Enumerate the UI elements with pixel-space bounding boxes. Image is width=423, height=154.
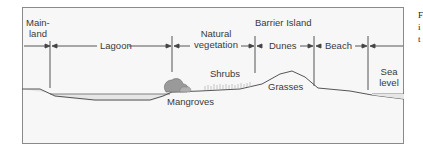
side-text-1: F (418, 10, 423, 20)
shrubs-label: Shrubs (210, 68, 240, 79)
natural-vegetation-label: Natural vegetation (190, 28, 242, 50)
sea-label-line1: Sea (376, 66, 402, 77)
shrubs-icon (205, 82, 250, 90)
ocean-water (372, 94, 404, 99)
dunes-label: Dunes (269, 40, 296, 51)
mainland-label-line1: Main- (26, 17, 50, 28)
grasses-label: Grasses (268, 81, 303, 92)
beach-label: Beach (325, 40, 352, 51)
side-text-2: i (418, 22, 421, 32)
sea-label-line2: level (376, 77, 402, 88)
vegetation-label-line1: Natural (190, 28, 242, 39)
mangrove-icon (164, 79, 190, 92)
barrier-island-title: Barrier Island (255, 17, 312, 28)
mainland-label-line2: land (26, 28, 50, 39)
mainland-label: Main- land (26, 17, 50, 39)
side-text-3: t (418, 34, 421, 44)
mangroves-label: Mangroves (167, 96, 214, 107)
vegetation-label-line2: vegetation (190, 39, 242, 50)
sea-level-label: Sea level (376, 66, 402, 88)
lagoon-label: Lagoon (100, 40, 132, 51)
